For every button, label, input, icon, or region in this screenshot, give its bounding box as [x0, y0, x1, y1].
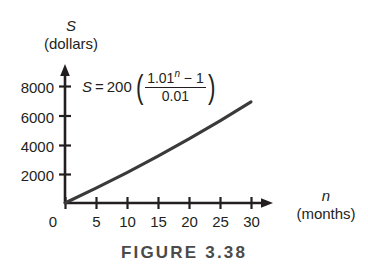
equation-open-paren: (: [136, 72, 143, 101]
numerator-base: 1.01: [147, 70, 174, 86]
y-axis-title: S (dollars): [28, 18, 114, 51]
x-tick-label: 15: [147, 213, 171, 230]
x-tick-label: 10: [116, 213, 140, 230]
y-tick-label: 6000: [6, 109, 54, 126]
equation-coefficient: 200: [107, 79, 132, 94]
figure-caption: FIGURE 3.38: [0, 243, 368, 263]
y-axis-variable: S: [28, 18, 114, 33]
y-axis-arrowhead: [60, 64, 70, 76]
y-tick-label: 8000: [6, 79, 54, 96]
equation-fraction: 1.01n − 1 0.01: [145, 68, 206, 104]
x-axis-variable: n: [286, 188, 366, 203]
numerator-tail: − 1: [184, 70, 204, 86]
figure-container: S (dollars) n (months) 8000 6000 4000 20…: [0, 0, 368, 274]
x-axis-arrowhead: [261, 198, 273, 208]
y-tick-label: 2000: [6, 167, 54, 184]
numerator-exponent: n: [174, 68, 180, 79]
x-tick-label: 25: [209, 213, 233, 230]
x-tick-label: 0: [41, 213, 65, 230]
x-tick-label: 5: [85, 213, 109, 230]
equation-equals: =: [95, 79, 104, 94]
equation-annotation: S = 200 ( 1.01n − 1 0.01 ): [82, 68, 216, 104]
y-tick-label: 4000: [6, 138, 54, 155]
equation-numerator: 1.01n − 1: [145, 68, 206, 87]
equation-close-paren: ): [208, 72, 215, 101]
data-series-line: [65, 102, 251, 203]
x-axis-unit: (months): [286, 206, 366, 221]
equation-denominator: 0.01: [160, 88, 191, 104]
x-tick-label: 20: [178, 213, 202, 230]
y-axis-unit: (dollars): [28, 36, 114, 51]
equation-lhs: S: [82, 79, 92, 94]
x-tick-label: 30: [240, 213, 264, 230]
x-axis-title: n (months): [286, 188, 366, 221]
